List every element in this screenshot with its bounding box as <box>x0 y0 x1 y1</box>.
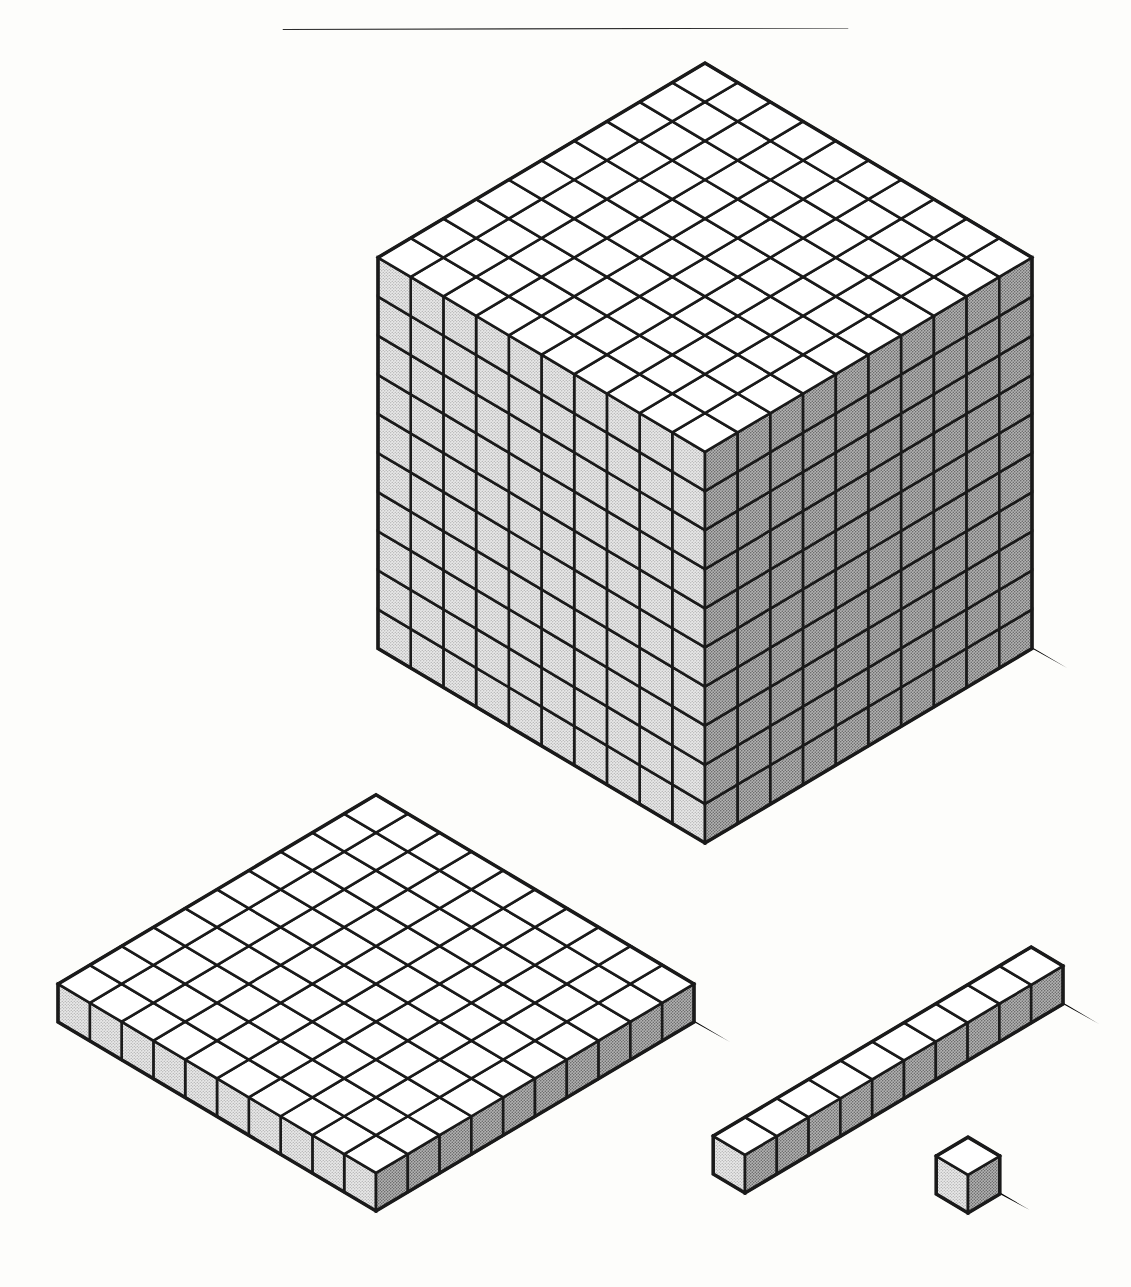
thousand-cube <box>378 63 1068 843</box>
ten-rod-top-face <box>713 947 1063 1155</box>
base-ten-blocks-figure <box>0 0 1131 1287</box>
ten-rod-right-face <box>745 966 1063 1193</box>
hundred-flat-top-face <box>58 795 694 1173</box>
one-unit-cube <box>936 1137 1030 1213</box>
ten-rod <box>713 947 1099 1193</box>
blocks-layer <box>58 63 1099 1213</box>
hundred-flat <box>58 795 730 1211</box>
page-canvas <box>0 0 1131 1287</box>
